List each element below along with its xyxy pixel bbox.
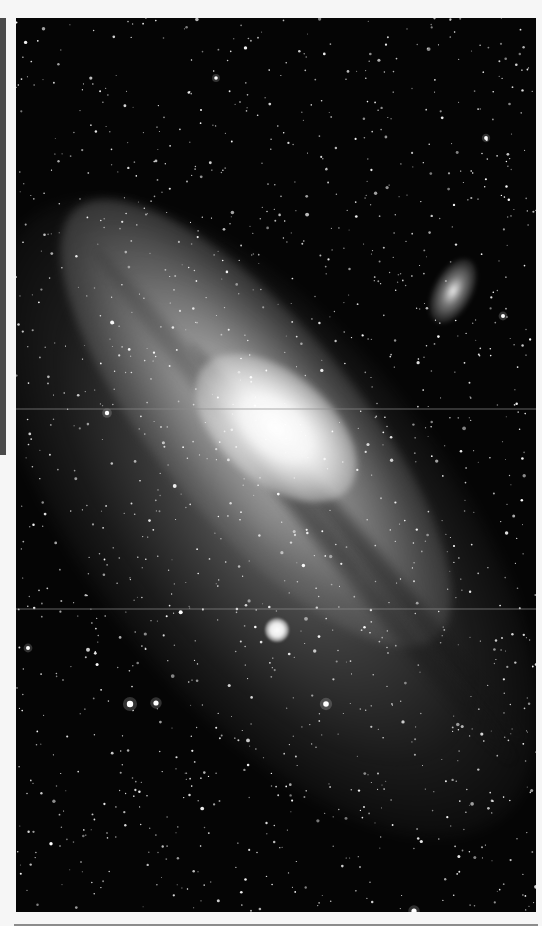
starfield [16, 18, 536, 912]
scan-artifact-line [16, 608, 536, 610]
scan-artifact-line [16, 408, 536, 410]
andromeda-photo [16, 18, 536, 912]
page-edge-bar [0, 18, 6, 455]
side-caption-text [1, 458, 10, 633]
side-caption [1, 458, 13, 633]
scanned-page [0, 0, 542, 926]
